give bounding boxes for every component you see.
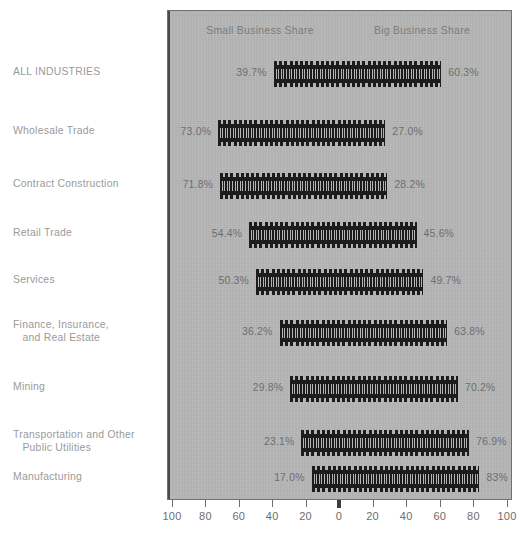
pictogram-legs [218, 133, 385, 138]
bar-row: 39.7%60.3% [168, 59, 511, 89]
left-value-label: 54.4% [201, 228, 242, 239]
right-value-label: 28.2% [394, 179, 438, 190]
axis-tick [172, 500, 173, 507]
right-value-label: 60.3% [448, 67, 492, 78]
category-label: Retail Trade [13, 226, 163, 240]
pictogram-heads [220, 195, 387, 199]
axis-tick-label: 40 [400, 510, 413, 522]
pictogram-heads [256, 291, 423, 295]
pictogram-rank [312, 466, 480, 479]
left-value-label: 50.3% [208, 275, 249, 286]
pictogram-rank [249, 235, 416, 248]
pictogram-legs [312, 479, 480, 484]
right-value-label: 49.7% [430, 275, 474, 286]
axis-tick-label: 100 [163, 510, 182, 522]
axis-tick-label: 0 [336, 510, 342, 522]
axis-tick-label: 20 [299, 510, 312, 522]
axis-tick-label: 40 [266, 510, 279, 522]
axis-tick-zero [337, 500, 341, 508]
pictogram-bar [312, 466, 480, 492]
category-label-line: Contract Construction [13, 177, 163, 191]
category-label: Wholesale Trade [13, 124, 163, 138]
pictogram-legs [220, 186, 387, 191]
pictogram-rank [280, 320, 448, 333]
pictogram-torsos [218, 138, 385, 142]
pictogram-heads [290, 398, 458, 402]
axis-tick [406, 500, 407, 507]
right-value-label: 70.2% [465, 382, 509, 393]
pictogram-torsos [301, 448, 469, 452]
pictogram-bar [274, 61, 442, 87]
pictogram-torsos [280, 338, 448, 342]
axis-tick-label: 20 [366, 510, 379, 522]
axis-tick [272, 500, 273, 507]
pictogram-rank [218, 133, 385, 146]
pictogram-rank [274, 74, 442, 87]
category-label-line: Finance, Insurance, [13, 318, 163, 332]
right-value-label: 83% [486, 472, 512, 483]
left-value-label: 36.2% [232, 326, 273, 337]
pictogram-rank [280, 333, 448, 346]
category-label-line: and Real Estate [13, 331, 163, 345]
left-value-label: 39.7% [226, 67, 267, 78]
pictogram-rank [220, 173, 387, 186]
left-value-label: 17.0% [264, 472, 305, 483]
pictogram-rank [312, 479, 480, 492]
pictogram-legs [249, 235, 416, 240]
axis-tick [507, 500, 508, 507]
header-big-business: Big Business Share [352, 25, 492, 36]
category-label-column: ALL INDUSTRIESWholesale TradeContract Co… [0, 0, 160, 540]
axis-tick-label: 60 [433, 510, 446, 522]
pictogram-bar [256, 269, 423, 295]
axis-tick-label: 60 [232, 510, 245, 522]
header-small-business: Small Business Share [190, 25, 330, 36]
pictogram-bar [220, 173, 387, 199]
axis-tick-marks [167, 500, 512, 508]
category-label-line: Retail Trade [13, 226, 163, 240]
category-label-line: Manufacturing [13, 470, 163, 484]
bar-row: 71.8%28.2% [168, 171, 511, 201]
pictogram-legs [301, 443, 469, 448]
pictogram-bar [218, 120, 385, 146]
pictogram-rank [274, 61, 442, 74]
pictogram-torsos [274, 79, 442, 83]
pictogram-legs [256, 282, 423, 287]
category-label-line: Services [13, 273, 163, 287]
pictogram-heads [312, 488, 480, 492]
category-label: ALL INDUSTRIES [13, 65, 163, 79]
pictogram-rank [220, 186, 387, 199]
pictogram-rank [218, 120, 385, 133]
pictogram-heads [301, 452, 469, 456]
bar-row: 36.2%63.8% [168, 318, 511, 348]
pictogram-rank [249, 222, 416, 235]
pictogram-torsos [312, 484, 480, 488]
category-label: Mining [13, 380, 163, 394]
pictogram-rank [301, 430, 469, 443]
axis-tick [205, 500, 206, 507]
bar-row: 50.3%49.7% [168, 267, 511, 297]
pictogram-bar [290, 376, 458, 402]
pictogram-heads [218, 142, 385, 146]
category-label: Contract Construction [13, 177, 163, 191]
pictogram-rank [290, 389, 458, 402]
category-label-line: Mining [13, 380, 163, 394]
pictogram-rank [256, 269, 423, 282]
axis-tick [440, 500, 441, 507]
pictogram-legs [290, 389, 458, 394]
axis-tick [373, 500, 374, 507]
pictogram-legs [274, 74, 442, 79]
left-value-label: 23.1% [253, 436, 294, 447]
right-value-label: 63.8% [454, 326, 498, 337]
pictogram-chart: ALL INDUSTRIESWholesale TradeContract Co… [0, 0, 528, 540]
pictogram-bar [249, 222, 416, 248]
bar-row: 23.1%76.9% [168, 428, 511, 458]
axis-tick-label: 100 [498, 510, 517, 522]
bar-row: 54.4%45.6% [168, 220, 511, 250]
pictogram-torsos [290, 394, 458, 398]
pictogram-torsos [249, 240, 416, 244]
left-value-label: 29.8% [242, 382, 283, 393]
category-label-line: Public Utilities [13, 441, 163, 455]
bar-row: 29.8%70.2% [168, 374, 511, 404]
category-label-line: Wholesale Trade [13, 124, 163, 138]
right-value-label: 45.6% [424, 228, 468, 239]
